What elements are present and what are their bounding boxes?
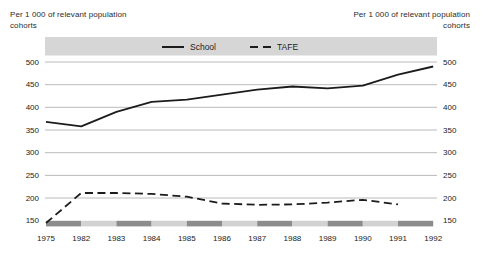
y-axis-label-left: 150 <box>17 216 39 225</box>
axis-band-segment <box>257 221 292 227</box>
y-axis-label-right: 200 <box>443 194 469 203</box>
x-axis-label: 1983 <box>100 234 132 243</box>
x-axis-label: 1984 <box>136 234 168 243</box>
x-axis-label: 1985 <box>171 234 203 243</box>
tafe-line-sample <box>250 46 271 48</box>
x-axis-label: 1991 <box>382 234 414 243</box>
school-legend-item: School <box>162 42 216 52</box>
axis-band-segment <box>116 221 151 227</box>
legend: School TAFE <box>162 37 298 56</box>
x-axis-label: 1975 <box>30 234 62 243</box>
y-axis-label-left: 200 <box>17 194 39 203</box>
x-axis-label: 1986 <box>206 234 238 243</box>
x-axis-label: 1988 <box>276 234 308 243</box>
axis-band-segment <box>152 221 187 227</box>
y-axis-label-right: 450 <box>443 80 469 89</box>
x-axis-label: 1982 <box>65 234 97 243</box>
y-axis-label-left: 350 <box>17 126 39 135</box>
axis-band-segment <box>81 221 116 227</box>
legend-label: TAFE <box>277 42 298 52</box>
y-axis-label-right: 400 <box>443 103 469 112</box>
y-axis-label-left: 400 <box>17 103 39 112</box>
axis-band-segment <box>222 221 257 227</box>
axis-band-segment <box>398 221 433 227</box>
axis-band-segment <box>363 221 398 227</box>
tafe-line <box>46 193 398 223</box>
x-axis-label: 1987 <box>241 234 273 243</box>
school-line <box>46 67 433 127</box>
y-axis-label-right: 300 <box>443 148 469 157</box>
y-axis-label-right: 150 <box>443 216 469 225</box>
axis-band-segment <box>328 221 363 227</box>
y-axis-label-right: 350 <box>443 126 469 135</box>
tafe-legend-item: TAFE <box>250 42 298 52</box>
school-line-sample <box>162 46 184 48</box>
y-axis-label-left: 250 <box>17 171 39 180</box>
x-axis-label: 1990 <box>347 234 379 243</box>
x-axis-label: 1989 <box>312 234 344 243</box>
axis-band-segment <box>187 221 222 227</box>
x-axis-label: 1992 <box>417 234 449 243</box>
y-axis-label-left: 300 <box>17 148 39 157</box>
y-axis-label-left: 500 <box>17 58 39 67</box>
y-axis-label-left: 450 <box>17 80 39 89</box>
legend-label: School <box>190 42 216 52</box>
axis-band-segment <box>292 221 327 227</box>
y-axis-label-right: 500 <box>443 58 469 67</box>
y-axis-label-right: 250 <box>443 171 469 180</box>
chart-container: Per 1 000 of relevant population cohorts… <box>0 0 488 261</box>
axis-band-segment <box>46 221 81 227</box>
